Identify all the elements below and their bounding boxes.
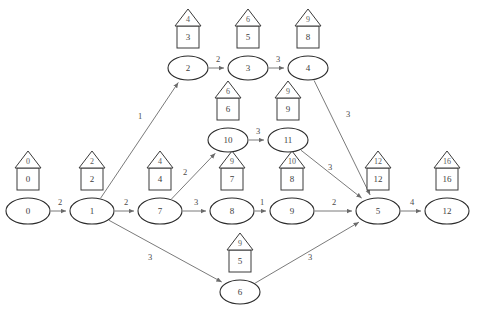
- node-12-box-label: 16: [443, 174, 453, 184]
- node-4-triangle-label: 9: [306, 15, 310, 24]
- edge-weight-3-4: 3: [276, 54, 280, 64]
- node-1-triangle-label: 2: [90, 157, 94, 166]
- edge-11-to-5: [301, 150, 362, 198]
- node-9-label: 9: [290, 206, 295, 216]
- node-5-label: 5: [376, 206, 381, 216]
- node-9-triangle-label: 10: [288, 157, 296, 166]
- node-2-box-label: 3: [186, 32, 191, 42]
- edge-weight-8-9: 1: [260, 197, 264, 207]
- edge-weight-7-10: 2: [183, 167, 187, 177]
- node-7-triangle-label: 4: [158, 157, 162, 166]
- edge-weight-1-7: 2: [124, 197, 128, 207]
- edge-weight-2-3: 2: [216, 54, 220, 64]
- edge-weight-1-6: 3: [148, 252, 152, 262]
- node-6-label: 6: [238, 287, 243, 297]
- edge-weight-5-12: 4: [410, 197, 415, 207]
- edge-weight-6-5: 3: [308, 252, 312, 262]
- node-0-triangle-label: 0: [26, 157, 30, 166]
- node-11-triangle-label: 9: [286, 87, 290, 96]
- edge-1-to-6: [109, 220, 222, 282]
- node-12-label: 12: [443, 206, 452, 216]
- edge-weight-7-8: 3: [194, 197, 198, 207]
- node-8-label: 8: [230, 206, 235, 216]
- node-3-triangle-label: 6: [246, 15, 250, 24]
- node-7-label: 7: [158, 206, 163, 216]
- node-2-label: 2: [186, 63, 191, 73]
- node-5-triangle-label: 12: [374, 157, 382, 166]
- node-12-triangle-label: 16: [443, 157, 451, 166]
- edge-4-to-5: [314, 80, 370, 195]
- edge-weight-1-2: 1: [138, 111, 142, 121]
- node-6-triangle-label: 9: [238, 239, 242, 248]
- node-5-box-label: 12: [374, 174, 383, 184]
- edge-weight-4-5: 3: [346, 109, 350, 119]
- edge-7-to-10: [172, 153, 216, 199]
- node-6-box-label: 5: [238, 256, 243, 266]
- node-2-triangle-label: 4: [186, 15, 190, 24]
- node-3-label: 3: [246, 63, 251, 73]
- node-0-box-label: 0: [26, 174, 31, 184]
- node-10-label: 10: [224, 135, 234, 145]
- node-7-box-label: 4: [158, 174, 163, 184]
- node-11-box-label: 9: [286, 104, 291, 114]
- edge-weight-9-5: 2: [332, 197, 336, 207]
- edge-weight-11-5: 3: [328, 162, 332, 172]
- edge-weight-0-1: 2: [58, 197, 62, 207]
- edge-weight-10-11: 3: [256, 126, 260, 136]
- node-0-label: 0: [26, 206, 31, 216]
- node-8-box-label: 7: [230, 174, 235, 184]
- node-4-label: 4: [306, 63, 311, 73]
- node-1-box-label: 2: [90, 174, 95, 184]
- graph-diagram: 0022447981012121616345689669959 01789512…: [0, 0, 477, 320]
- node-10-box-label: 6: [226, 104, 231, 114]
- node-1-label: 1: [90, 206, 95, 216]
- node-10-triangle-label: 6: [226, 87, 230, 96]
- graph-canvas: 0022447981012121616345689669959 01789512…: [0, 0, 477, 320]
- node-9-box-label: 8: [290, 174, 295, 184]
- node-8-triangle-label: 9: [230, 157, 234, 166]
- node-3-box-label: 5: [246, 32, 251, 42]
- node-11-label: 11: [284, 135, 293, 145]
- node-4-box-label: 8: [306, 32, 311, 42]
